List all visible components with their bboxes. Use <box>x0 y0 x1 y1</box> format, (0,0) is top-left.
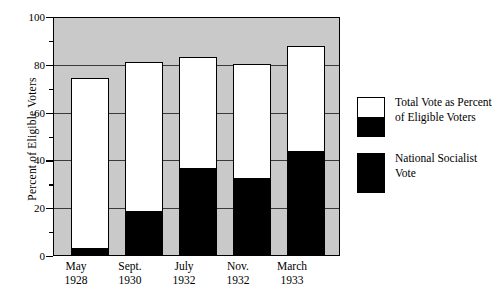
y-tick-major-60 <box>46 113 53 114</box>
bar-group-sept-1930 <box>125 18 163 255</box>
bar-total-vote <box>125 62 163 255</box>
y-tick-major-40 <box>46 160 53 161</box>
bar-national-socialist-vote <box>234 178 270 254</box>
y-tick-major-80 <box>46 65 53 66</box>
bar-group-july-1932 <box>179 18 217 255</box>
bar-national-socialist-vote <box>72 248 108 254</box>
bar-total-vote <box>233 64 271 255</box>
legend-swatch-national-socialist-vote <box>357 153 385 193</box>
legend-label-line1: National Socialist <box>395 151 477 166</box>
y-tick-major-20 <box>46 208 53 209</box>
plot-area <box>53 17 340 256</box>
bar-national-socialist-vote <box>180 168 216 254</box>
bar-total-vote <box>71 78 109 255</box>
y-tick-major-100 <box>46 17 53 18</box>
y-tick-label-20: 20 <box>5 202 45 214</box>
legend-swatch-total-vote <box>357 97 385 137</box>
bar-group-may-1928 <box>71 18 109 255</box>
y-tick-label-60: 60 <box>5 107 45 119</box>
bar-group-march-1933 <box>287 18 325 255</box>
y-tick-label-0: 0 <box>5 250 45 262</box>
bar-total-vote <box>179 57 217 255</box>
x-tick-line1: March <box>256 260 328 274</box>
x-tick-line2: 1933 <box>256 274 328 288</box>
y-tick-label-40: 40 <box>5 154 45 166</box>
bar-total-vote <box>287 46 325 255</box>
bar-group-nov-1932 <box>233 18 271 255</box>
legend-label-line2: Vote <box>395 166 477 181</box>
legend-label-total-vote: Total Vote as Percent of Eligible Voters <box>395 95 492 125</box>
y-tick-major-0 <box>46 256 53 257</box>
legend-swatch-lower-black <box>358 117 384 136</box>
legend-label-line1: Total Vote as Percent <box>395 95 492 110</box>
bar-national-socialist-vote <box>288 151 324 254</box>
legend-label-national-socialist-vote: National Socialist Vote <box>395 151 477 181</box>
legend-label-line2: of Eligible Voters <box>395 110 492 125</box>
x-tick-label-march-1933: March 1933 <box>256 260 328 287</box>
y-tick-label-80: 80 <box>5 59 45 71</box>
bar-national-socialist-vote <box>126 211 162 254</box>
y-tick-label-100: 100 <box>5 11 45 23</box>
